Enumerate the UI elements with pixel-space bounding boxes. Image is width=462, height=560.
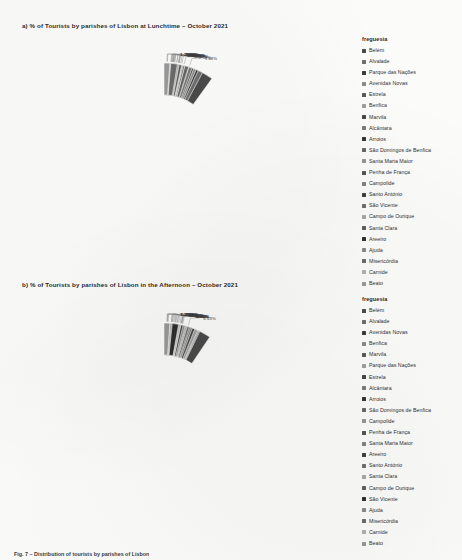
legend-item[interactable]: Benfica [360, 100, 462, 111]
chart-a-legend: freguesia BelémAlvaladeParque das Nações… [360, 36, 462, 289]
legend-swatch-icon [362, 237, 366, 241]
legend-swatch-icon [362, 49, 366, 53]
legend-item[interactable]: Beato [360, 538, 462, 549]
legend-swatch-icon [362, 453, 366, 457]
legend-item[interactable]: Santa Maria Maior [360, 438, 462, 449]
legend-item-label: São Domingos de Benfica [369, 145, 431, 156]
legend-item-label: Santa Maria Maior [369, 156, 413, 167]
legend-item[interactable]: Alvalade [360, 316, 462, 327]
legend-item[interactable]: São Domingos de Benfica [360, 405, 462, 416]
legend-item[interactable]: Penha de França [360, 427, 462, 438]
legend-item[interactable]: Parque das Nações [360, 67, 462, 78]
legend-item-label: São Domingos de Benfica [369, 405, 431, 416]
legend-swatch-icon [362, 148, 366, 152]
legend-item-label: Estrela [369, 372, 386, 383]
legend-item-label: Parque das Nações [369, 360, 416, 371]
legend-item[interactable]: Campolide [360, 416, 462, 427]
legend-swatch-icon [362, 193, 366, 197]
legend-item[interactable]: Campo de Ourique [360, 483, 462, 494]
legend-item[interactable]: Santo António [360, 460, 462, 471]
legend-item[interactable]: Alcântara [360, 123, 462, 134]
legend-swatch-icon [362, 530, 366, 534]
legend-item[interactable]: Santo António [360, 189, 462, 200]
legend-item-label: Belém [369, 45, 384, 56]
legend-item[interactable]: Carnide [360, 527, 462, 538]
legend-swatch-icon [362, 397, 366, 401]
legend-item[interactable]: Belém [360, 305, 462, 316]
legend-item-label: Avenidas Novas [369, 327, 408, 338]
legend-item[interactable]: Santa Maria Maior [360, 156, 462, 167]
legend-swatch-icon [362, 115, 366, 119]
legend-item[interactable]: São Domingos de Benfica [360, 145, 462, 156]
legend-b-title: freguesia [362, 296, 462, 302]
legend-item[interactable]: Misericórdia [360, 256, 462, 267]
legend-item[interactable]: Marvila [360, 112, 462, 123]
legend-item[interactable]: Areeiro [360, 234, 462, 245]
legend-item-label: Penha de França [369, 427, 410, 438]
legend-item-label: Avenidas Novas [369, 78, 408, 89]
legend-item[interactable]: São Vicente [360, 494, 462, 505]
legend-swatch-icon [362, 353, 366, 357]
legend-item-label: Arroios [369, 394, 386, 405]
legend-swatch-icon [362, 386, 366, 390]
legend-item[interactable]: Estrela [360, 89, 462, 100]
legend-a-title: freguesia [362, 36, 462, 42]
legend-swatch-icon [362, 497, 366, 501]
legend-item[interactable]: Penha de França [360, 167, 462, 178]
legend-swatch-icon [362, 82, 366, 86]
legend-item[interactable]: Avenidas Novas [360, 78, 462, 89]
legend-item[interactable]: Santa Clara [360, 471, 462, 482]
legend-item[interactable]: Parque das Nações [360, 360, 462, 371]
chart-b-title: b) % of Tourists by parishes of Lisbon i… [22, 281, 238, 288]
legend-item[interactable]: Areeiro [360, 449, 462, 460]
document-page: a) % of Tourists by parishes of Lisbon a… [0, 0, 462, 560]
legend-swatch-icon [362, 486, 366, 490]
legend-item[interactable]: Marvila [360, 349, 462, 360]
legend-item[interactable]: Misericórdia [360, 516, 462, 527]
legend-item-label: Areeiro [369, 449, 386, 460]
legend-item-label: Benfica [369, 100, 387, 111]
legend-item-label: Ajuda [369, 505, 383, 516]
donut-chart-a: 9.68%7.57%6.67%6.24%5.50%5.45%5.75%5.42%… [14, 36, 314, 254]
legend-item[interactable]: Campo de Ourique [360, 211, 462, 222]
legend-swatch-icon [362, 137, 366, 141]
legend-item-label: Areeiro [369, 234, 386, 245]
legend-item[interactable]: São Vicente [360, 200, 462, 211]
label-leader-line [190, 58, 201, 65]
legend-item[interactable]: Arroios [360, 134, 462, 145]
legend-b-items: BelémAlvaladeAvenidas NovasBenficaMarvil… [360, 305, 462, 549]
legend-item[interactable]: Carnide [360, 267, 462, 278]
legend-swatch-icon [362, 204, 366, 208]
legend-item[interactable]: Benfica [360, 338, 462, 349]
legend-item-label: Carnide [369, 267, 388, 278]
legend-swatch-icon [362, 259, 366, 263]
legend-item[interactable]: Campolide [360, 178, 462, 189]
legend-item[interactable]: Alvalade [360, 56, 462, 67]
legend-item[interactable]: Ajuda [360, 245, 462, 256]
legend-item[interactable]: Beato [360, 278, 462, 289]
legend-swatch-icon [362, 93, 366, 97]
legend-swatch-icon [362, 320, 366, 324]
legend-swatch-icon [362, 331, 366, 335]
legend-item-label: Santo António [369, 189, 402, 200]
legend-item-label: Santa Clara [369, 223, 397, 234]
legend-swatch-icon [362, 342, 366, 346]
legend-swatch-icon [362, 171, 366, 175]
donut-chart-b: 8.69%6.65%6.09%6.44%6.11%6.24%5.66%5.17%… [14, 296, 314, 514]
legend-item-label: Misericórdia [369, 516, 398, 527]
legend-item[interactable]: Ajuda [360, 505, 462, 516]
legend-item[interactable]: Santa Clara [360, 223, 462, 234]
legend-swatch-icon [362, 215, 366, 219]
legend-item[interactable]: Avenidas Novas [360, 327, 462, 338]
legend-item-label: São Vicente [369, 200, 398, 211]
legend-item-label: Penha de França [369, 167, 410, 178]
legend-item-label: Misericórdia [369, 256, 398, 267]
legend-item[interactable]: Alcântara [360, 383, 462, 394]
legend-item-label: Estrela [369, 89, 386, 100]
legend-swatch-icon [362, 419, 366, 423]
legend-item[interactable]: Belém [360, 45, 462, 56]
legend-item-label: Belém [369, 305, 384, 316]
legend-item-label: Parque das Nações [369, 67, 416, 78]
legend-item[interactable]: Estrela [360, 372, 462, 383]
legend-item[interactable]: Arroios [360, 394, 462, 405]
